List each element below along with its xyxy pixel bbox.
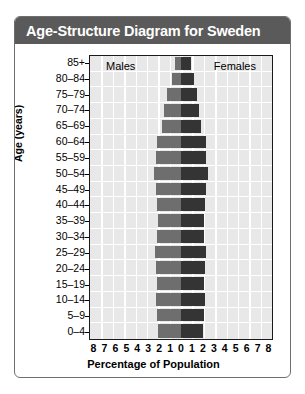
chart-card: Age-Structure Diagram for Sweden Age (ye… (14, 16, 291, 378)
y-axis-tick-labels: 85+80–8475–7970–7465–6960–6455–5950–5445… (15, 55, 89, 340)
bar-row (90, 103, 272, 119)
bar-females (181, 277, 204, 290)
bar-females (181, 57, 191, 70)
bar-row (90, 260, 272, 276)
age-band-label: 70–74 (14, 103, 89, 115)
bar-row (90, 323, 272, 339)
bar-females (181, 214, 204, 227)
bar-females (181, 246, 206, 259)
bar-males (154, 167, 181, 180)
x-axis-label: Percentage of Population (15, 358, 291, 370)
bar-males (164, 104, 181, 117)
x-tick-label: 5 (231, 342, 240, 356)
bar-row (90, 276, 272, 292)
bar-females (181, 136, 206, 149)
x-tick-label: 4 (133, 342, 142, 356)
bar-males (157, 136, 181, 149)
bar-females (181, 167, 208, 180)
x-tick-label: 2 (155, 342, 164, 356)
age-band-label: 30–34 (14, 230, 89, 242)
bar-females (181, 183, 206, 196)
bar-row (90, 308, 272, 324)
x-tick-label: 4 (220, 342, 229, 356)
x-tick-label: 7 (100, 342, 109, 356)
bar-row (90, 166, 272, 182)
population-pyramid-chart: Age (years) 85+80–8475–7970–7465–6960–64… (15, 44, 291, 378)
x-tick-label: 1 (187, 342, 196, 356)
age-band-label: 65–69 (14, 119, 89, 131)
plot-area: Males Females (89, 55, 273, 340)
bar-females (181, 104, 199, 117)
bar-row (90, 150, 272, 166)
bar-row (90, 292, 272, 308)
age-band-label: 0–4 (14, 325, 89, 337)
x-tick-label: 3 (144, 342, 153, 356)
bar-males (158, 324, 181, 338)
age-band-label: 60–64 (14, 135, 89, 147)
bar-row (90, 72, 272, 88)
x-tick-label: 7 (253, 342, 262, 356)
legend-label-males: Males (106, 60, 135, 72)
bar-females (181, 261, 205, 274)
age-band-label: 80–84 (14, 72, 89, 84)
bar-males (157, 277, 181, 290)
x-tick-label: 8 (264, 342, 273, 356)
bar-males (172, 73, 181, 86)
x-tick-label: 6 (111, 342, 120, 356)
age-band-label: 45–49 (14, 183, 89, 195)
x-tick-label: 3 (209, 342, 218, 356)
x-tick-label: 0 (177, 342, 186, 356)
bar-row (90, 87, 272, 103)
bar-females (181, 293, 205, 306)
age-band-label: 50–54 (14, 167, 89, 179)
bar-males (156, 151, 181, 164)
x-tick-label: 6 (242, 342, 251, 356)
bar-row (90, 229, 272, 245)
page-title: Age-Structure Diagram for Sweden (26, 23, 261, 39)
bar-row (90, 135, 272, 151)
age-band-label: 10–14 (14, 293, 89, 305)
bar-row (90, 119, 272, 135)
bar-males (157, 230, 181, 243)
bar-males (157, 309, 181, 322)
bar-males (157, 198, 181, 211)
x-tick-label: 1 (166, 342, 175, 356)
x-tick-label: 2 (198, 342, 207, 356)
bar-males (155, 246, 181, 259)
bar-males (167, 88, 181, 101)
age-band-label: 40–44 (14, 198, 89, 210)
bar-row (90, 213, 272, 229)
bar-females (181, 151, 206, 164)
age-band-label: 55–59 (14, 151, 89, 163)
x-tick-label: 8 (89, 342, 98, 356)
bar-row (90, 245, 272, 261)
bar-males (156, 183, 181, 196)
age-band-label: 15–19 (14, 278, 89, 290)
legend-label-females: Females (214, 60, 256, 72)
age-band-label: 85+ (14, 56, 89, 68)
bar-females (181, 88, 197, 101)
bar-row (90, 182, 272, 198)
age-band-label: 20–24 (14, 262, 89, 274)
bar-males (158, 214, 181, 227)
age-band-label: 75–79 (14, 88, 89, 100)
age-band-label: 25–29 (14, 246, 89, 258)
bar-males (156, 293, 181, 306)
x-tick-label: 5 (122, 342, 131, 356)
bar-rows (90, 56, 272, 339)
chart-title-bar: Age-Structure Diagram for Sweden (15, 17, 290, 44)
age-band-label: 5–9 (14, 309, 89, 321)
bar-males (162, 120, 181, 133)
x-axis-tick-labels: 87654321012345678 (89, 342, 273, 356)
bar-females (181, 324, 203, 338)
age-band-label: 35–39 (14, 214, 89, 226)
bar-row (90, 197, 272, 213)
bar-females (181, 198, 205, 211)
bar-females (181, 309, 204, 322)
bar-females (181, 120, 201, 133)
bar-males (156, 261, 181, 274)
bar-females (181, 73, 194, 86)
bar-females (181, 230, 204, 243)
